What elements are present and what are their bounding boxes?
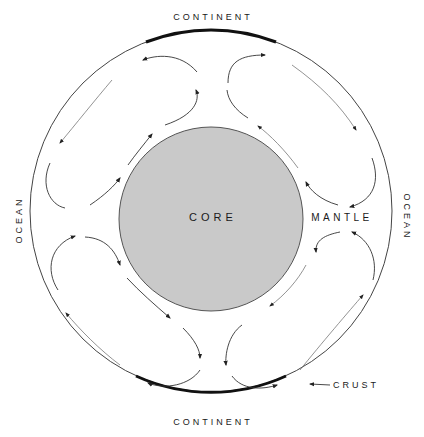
label-continent-bottom: CONTINENT (173, 417, 253, 427)
continent-bottom-arc (136, 376, 286, 392)
label-ocean-left: OCEAN (14, 196, 24, 243)
crust-pointer-arrow (310, 384, 330, 385)
label-mantle: MANTLE (311, 212, 373, 223)
label-continent-top: CONTINENT (173, 12, 253, 22)
continent-top-arc (146, 30, 276, 42)
label-core: CORE (189, 211, 237, 223)
label-crust: CRUST (333, 380, 379, 390)
label-ocean-right: OCEAN (402, 193, 412, 240)
mantle-convection-diagram: CONTINENT CONTINENT OCEAN OCEAN CORE MAN… (0, 0, 424, 437)
